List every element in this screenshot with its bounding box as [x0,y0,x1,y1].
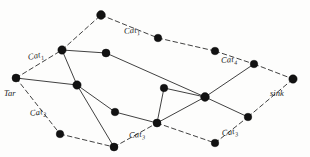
label-text: Cat [221,126,235,138]
node-bottom-left[interactable] [56,130,64,138]
node-upper-mid[interactable] [102,49,110,57]
label-tar: Tar [4,88,16,98]
edge-n14-n8 [248,79,293,117]
node-bottom-right[interactable] [211,139,219,147]
label-text: sink [270,88,284,98]
label-cat3-bottom: Cat3 [128,129,145,142]
edge-n11-n13 [157,88,164,123]
edge-n2-n9 [62,50,77,85]
edge-n2-n4 [62,50,106,53]
label-text: Tar [4,88,16,98]
node-bottom-mid[interactable] [110,143,118,151]
node-top-peak[interactable] [97,11,106,20]
label-cat2: Cat2 [29,106,47,120]
nodes-layer [12,11,297,151]
label-cat3-right: Cat3 [221,126,239,140]
label-text: Cat [128,129,142,140]
edge-n10-n11 [115,112,157,123]
node-left-lower[interactable] [73,81,81,89]
label-cat1-top: Cat1 [123,24,140,37]
node-mid-center[interactable] [201,93,210,102]
edge-n1-n9 [16,78,77,85]
edge-n15-n16 [60,134,114,147]
label-text: Cat [221,54,235,65]
node-top-right-b[interactable] [211,47,219,55]
label-text: Cat [29,106,43,118]
edge-n9-n16 [77,85,114,147]
edges-layer [16,15,293,147]
label-subscript: 4 [234,60,238,66]
diagram-canvas: Cat1Cat4Cat1TarsinkCat2Cat3Cat3 [0,0,310,157]
node-upper-left-hub[interactable] [58,46,66,54]
edge-n12-n7 [205,64,254,97]
node-tar-node[interactable] [12,74,20,82]
edge-n2-n3 [62,15,101,50]
graph-svg [0,0,310,157]
edge-n13-n12 [164,88,205,97]
label-subscript: 1 [137,30,141,36]
edge-n12-n14 [205,97,248,117]
label-sink: sink [270,88,284,98]
label-subscript: 3 [142,134,146,140]
label-cat4: Cat4 [221,54,238,67]
node-sink-node[interactable] [289,75,297,83]
node-mid-lower[interactable] [111,108,119,116]
label-text: Cat [123,25,137,36]
node-right-upper[interactable] [250,60,258,68]
edge-n5-n6 [158,38,215,51]
node-upper-center[interactable] [160,84,168,92]
edge-n11-n12 [157,97,205,123]
edge-n11-n17 [157,123,215,143]
node-right-lower[interactable] [244,113,252,121]
node-top-right-a[interactable] [154,34,162,42]
edge-n4-n12 [106,53,205,97]
edge-n7-n8 [254,64,293,79]
edge-n9-n10 [77,85,115,112]
label-subscript: 2 [43,111,47,117]
node-center-hub[interactable] [153,119,161,127]
label-text: Cat [27,49,42,61]
